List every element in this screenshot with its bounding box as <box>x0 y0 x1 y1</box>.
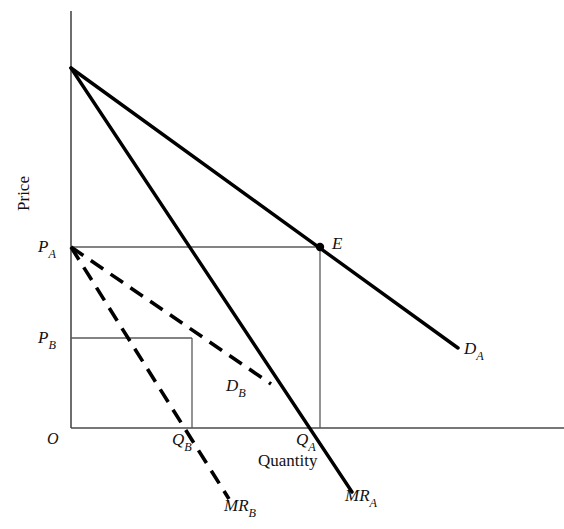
demand-curve-b <box>71 247 271 384</box>
price-b-label: PB <box>38 329 56 350</box>
marginal-revenue-curve-b <box>71 247 229 499</box>
quantity-a-label: QA <box>296 431 316 452</box>
price-b-symbol: P <box>38 328 48 347</box>
economics-demand-diagram: Price Quantity O PA PB QB QA E DA DB MRA… <box>0 0 564 529</box>
demand-a-subscript: A <box>476 349 483 363</box>
demand-a-label: DA <box>464 340 484 361</box>
marginal-revenue-a-subscript: A <box>370 496 377 510</box>
equilibrium-point-marker <box>316 243 324 251</box>
quantity-a-subscript: A <box>308 440 315 454</box>
quantity-a-symbol: Q <box>296 430 308 449</box>
demand-b-subscript: B <box>238 386 245 400</box>
quantity-b-symbol: Q <box>172 430 184 449</box>
demand-b-label: DB <box>226 377 246 398</box>
y-axis-title: Price <box>15 164 32 224</box>
price-a-symbol: P <box>38 237 48 256</box>
quantity-b-subscript: B <box>184 440 191 454</box>
origin-label: O <box>47 431 59 447</box>
diagram-canvas <box>0 0 564 529</box>
price-b-subscript: B <box>48 338 55 352</box>
demand-a-symbol: D <box>464 339 476 358</box>
price-a-label: PA <box>38 238 56 259</box>
quantity-b-label: QB <box>172 431 192 452</box>
marginal-revenue-a-symbol: MR <box>345 486 370 505</box>
equilibrium-label: E <box>332 235 342 252</box>
marginal-revenue-b-label: MRB <box>224 497 256 518</box>
demand-curve-a <box>71 68 458 348</box>
x-axis-title: Quantity <box>258 452 318 469</box>
price-a-subscript: A <box>48 247 55 261</box>
marginal-revenue-b-symbol: MR <box>224 496 249 515</box>
marginal-revenue-a-label: MRA <box>345 487 377 508</box>
demand-b-symbol: D <box>226 376 238 395</box>
marginal-revenue-b-subscript: B <box>249 506 256 520</box>
